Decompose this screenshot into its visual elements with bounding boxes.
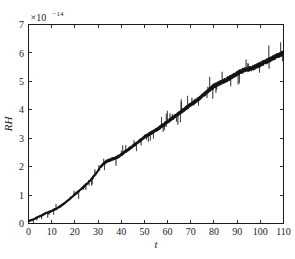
x-tick-label: 0 — [26, 226, 31, 237]
x-tick-label: 110 — [276, 226, 291, 237]
x-tick-label: 80 — [209, 226, 219, 237]
x-tick-label: 60 — [163, 226, 173, 237]
x-tick-label: 20 — [70, 226, 80, 237]
axes-frame — [29, 25, 284, 224]
x-tick-label: 30 — [93, 226, 103, 237]
y-tick-labels-group: 01234567 — [19, 19, 24, 229]
y-tick-label: 0 — [19, 218, 24, 229]
y-tick-label: 4 — [19, 104, 24, 115]
y-tick-label: 1 — [19, 190, 24, 201]
x-tick-labels-group: 0102030405060708090100110 — [26, 226, 291, 237]
data-series-rh-overlay — [29, 51, 284, 223]
data-series-group — [29, 42, 284, 223]
x-tick-label: 70 — [186, 226, 196, 237]
y-axis-exponent-label: ×10 — [31, 12, 47, 23]
x-tick-label: 90 — [232, 226, 242, 237]
y-tick-label: 7 — [19, 19, 24, 30]
y-axis-exponent-power: −14 — [53, 10, 64, 18]
x-tick-label: 100 — [253, 226, 268, 237]
x-tick-label: 10 — [47, 226, 57, 237]
tick-marks-group — [29, 25, 284, 224]
y-tick-label: 3 — [19, 133, 24, 144]
y-tick-label: 2 — [19, 161, 24, 172]
x-tick-label: 50 — [139, 226, 149, 237]
y-tick-label: 5 — [19, 76, 24, 87]
x-axis-label: t — [154, 238, 158, 250]
chart-svg: 0102030405060708090100110 01234567 t RH … — [0, 0, 295, 259]
y-tick-label: 6 — [19, 48, 24, 59]
x-tick-label: 40 — [116, 226, 126, 237]
chart-figure: 0102030405060708090100110 01234567 t RH … — [0, 0, 295, 259]
y-axis-label: RH — [2, 116, 14, 133]
